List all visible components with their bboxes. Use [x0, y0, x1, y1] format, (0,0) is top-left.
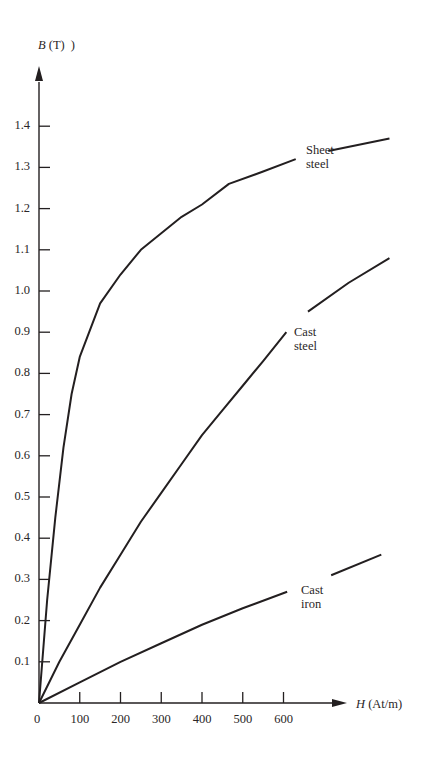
series-label-cast-steel: Cast steel [294, 325, 317, 353]
y-tick-label: 1.3 [0, 159, 30, 174]
y-tick-label: 0.5 [0, 489, 30, 504]
y-axis [35, 66, 43, 703]
y-tick-label: 0.4 [0, 530, 30, 545]
y-axis-arrow-icon [35, 66, 43, 81]
x-axis [39, 699, 347, 707]
curve-cast-steel [308, 258, 390, 312]
x-tick-label: 500 [228, 712, 258, 727]
y-tick-label: 0.3 [0, 571, 30, 586]
y-tick-label: 1.2 [0, 201, 30, 216]
x-axis-arrow-icon [332, 699, 347, 707]
curve-cast-iron [39, 592, 287, 703]
curves [39, 139, 389, 703]
x-ticks [80, 692, 284, 703]
x-tick-label: 300 [146, 712, 176, 727]
curve-cast-iron [331, 555, 381, 576]
y-tick-label: 0.6 [0, 448, 30, 463]
x-tick-label: 100 [65, 712, 95, 727]
x-axis-title: H (At/m) [356, 697, 402, 711]
y-tick-label: 1.0 [0, 283, 30, 298]
curve-cast-steel [39, 332, 286, 703]
curve-sheet-steel [328, 139, 389, 151]
y-tick-label: 0.2 [0, 613, 30, 628]
y-tick-label: 1.1 [0, 242, 30, 257]
x-tick-label: 0 [22, 712, 52, 727]
series-label-sheet-steel: Sheet steel [306, 143, 334, 171]
x-tick-label: 600 [269, 712, 299, 727]
curve-sheet-steel [39, 159, 296, 703]
y-tick-label: 0.8 [0, 365, 30, 380]
y-tick-label: 0.9 [0, 324, 30, 339]
x-tick-label: 400 [187, 712, 217, 727]
series-label-cast-iron: Cast iron [301, 583, 323, 611]
y-axis-title: B (T) ) [38, 38, 75, 52]
x-tick-label: 200 [106, 712, 136, 727]
y-tick-label: 1.4 [0, 118, 30, 133]
y-tick-label: 0.1 [0, 654, 30, 669]
y-tick-label: 0.7 [0, 407, 30, 422]
bh-chart [0, 0, 429, 765]
